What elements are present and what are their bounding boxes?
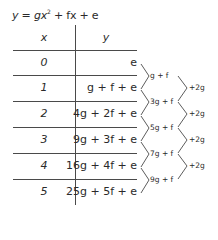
row-y-value: 9g + 3f + e <box>73 133 137 147</box>
row-y-value: 16g + 4f + e <box>66 159 137 173</box>
second-diff-bracket <box>178 128 187 153</box>
first-diff-bracket <box>141 64 149 89</box>
first-difference-label: g + f <box>150 71 168 81</box>
second-diff-bracket <box>178 154 187 179</box>
first-difference-label: 3g + f <box>150 97 173 107</box>
second-diff-bracket <box>178 76 187 101</box>
second-difference-label: +2g <box>189 83 205 93</box>
row-x-value: 2 <box>13 107 75 121</box>
second-difference-label: +2g <box>189 161 205 171</box>
row-y-value: g + f + e <box>87 81 137 95</box>
second-diff-bracket <box>178 102 187 127</box>
row-y-value: 25g + 5f + e <box>66 185 137 199</box>
header-x: x <box>13 31 75 45</box>
row-x-value: 0 <box>13 56 75 70</box>
row-y-value: e <box>130 56 137 70</box>
header-y: y <box>75 31 137 45</box>
second-difference-label: +2g <box>189 109 205 119</box>
row-y-value: 4g + 2f + e <box>73 107 137 121</box>
first-diff-bracket <box>141 142 149 167</box>
first-difference-label: 5g + f <box>150 123 173 133</box>
first-diff-bracket <box>141 116 149 141</box>
first-difference-label: 9g + f <box>150 175 173 185</box>
second-difference-label: +2g <box>189 135 205 145</box>
first-diff-bracket <box>141 90 149 115</box>
row-x-value: 1 <box>13 81 75 95</box>
first-diff-bracket <box>141 168 149 193</box>
first-difference-label: 7g + f <box>150 149 173 159</box>
row-x-value: 3 <box>13 133 75 147</box>
